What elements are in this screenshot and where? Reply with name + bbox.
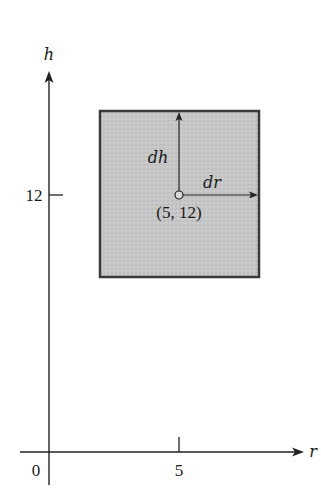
r-tick-label: 5 [175, 461, 184, 480]
r-axis [20, 448, 304, 457]
diagram-svg: h r 0 5 12 dh dr (5, 12) [0, 0, 321, 502]
diagram-canvas: h r 0 5 12 dh dr (5, 12) [0, 0, 321, 502]
h-axis [45, 71, 54, 485]
point-marker [175, 191, 183, 199]
origin-label: 0 [32, 461, 41, 480]
point-label: (5, 12) [156, 203, 201, 222]
h-tick-label: 12 [26, 186, 43, 205]
dh-label: dh [148, 148, 169, 167]
r-axis-label: r [309, 442, 318, 461]
dr-label: dr [203, 173, 222, 192]
h-axis-label: h [44, 45, 54, 64]
